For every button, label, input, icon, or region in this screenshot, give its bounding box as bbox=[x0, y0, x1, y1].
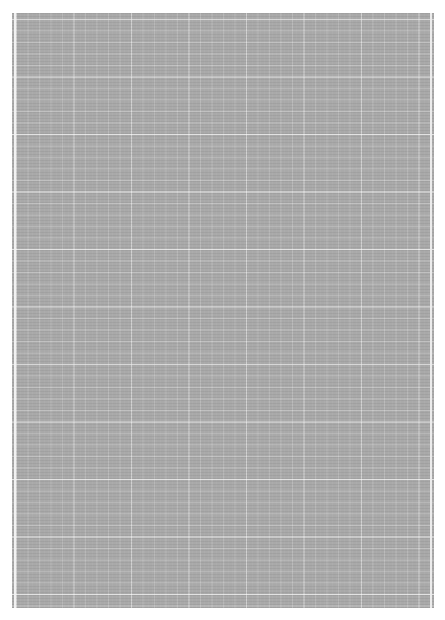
left-edge-stripe bbox=[14, 13, 16, 608]
right-edge-stripe bbox=[430, 13, 432, 608]
grid-paper-sheet bbox=[12, 13, 434, 608]
